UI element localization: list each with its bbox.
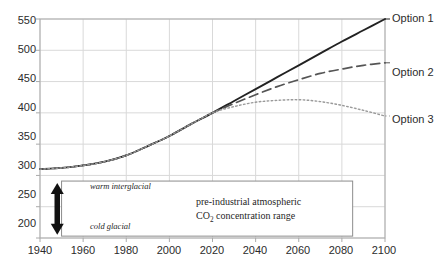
concentration-range-text: concentration range bbox=[214, 210, 296, 221]
y-tick-550: 550 bbox=[2, 14, 36, 26]
x-tick-2000: 2000 bbox=[149, 244, 189, 256]
annotation-cold-glacial: cold glacial bbox=[90, 221, 130, 231]
chart-plot-area bbox=[0, 0, 445, 269]
x-tick-2080: 2080 bbox=[321, 244, 361, 256]
annotation-preindustrial-line1: pre-industrial atmospheric bbox=[196, 196, 301, 207]
annotation-preindustrial-line2: CO2 concentration range bbox=[196, 210, 295, 224]
y-tick-400: 400 bbox=[2, 101, 36, 113]
co2-text: CO bbox=[196, 210, 210, 221]
x-tick-1980: 1980 bbox=[106, 244, 146, 256]
series-label-option-1: Option 1 bbox=[392, 12, 434, 24]
y-tick-450: 450 bbox=[2, 72, 36, 84]
x-tick-2020: 2020 bbox=[192, 244, 232, 256]
x-tick-1940: 1940 bbox=[20, 244, 60, 256]
x-tick-1960: 1960 bbox=[63, 244, 103, 256]
chart-container: 550 500 450 400 350 300 250 200 1940 196… bbox=[0, 0, 445, 269]
series-label-option-2: Option 2 bbox=[392, 66, 434, 78]
y-tick-350: 350 bbox=[2, 130, 36, 142]
x-tick-2060: 2060 bbox=[278, 244, 318, 256]
y-tick-250: 250 bbox=[2, 188, 36, 200]
y-tick-200: 200 bbox=[2, 217, 36, 229]
annotation-warm-interglacial: warm interglacial bbox=[90, 181, 151, 191]
y-tick-500: 500 bbox=[2, 43, 36, 55]
series-label-option-3: Option 3 bbox=[392, 113, 434, 125]
y-tick-300: 300 bbox=[2, 159, 36, 171]
x-tick-2100: 2100 bbox=[364, 244, 404, 256]
x-tick-2040: 2040 bbox=[235, 244, 275, 256]
